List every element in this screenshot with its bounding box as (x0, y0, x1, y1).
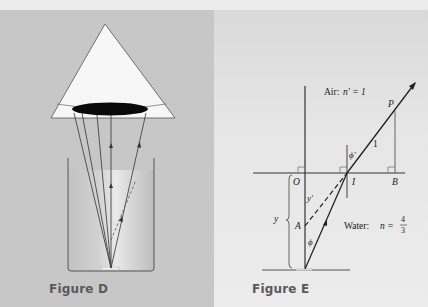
depth-brace (286, 175, 292, 268)
object-base (296, 268, 312, 271)
label-I: I (351, 177, 356, 187)
right-angle-mark (340, 167, 347, 173)
right-angle-mark (388, 167, 395, 173)
label-A: A (294, 221, 301, 231)
arrow-icon (109, 143, 113, 148)
label-B: B (392, 177, 398, 187)
label-P: P (387, 99, 394, 109)
label-phi: ϕ (308, 237, 313, 247)
object-base (101, 267, 119, 270)
figure-d-caption: Figure D (49, 282, 108, 296)
right-angle-mark (298, 167, 305, 173)
label-y: y (273, 214, 279, 224)
black-disk (72, 103, 148, 116)
arrow-icon (323, 219, 327, 226)
label-phi-prime: ϕ′ (349, 150, 357, 160)
figure-e-caption: Figure E (252, 282, 309, 296)
water-index-prefix: n = (380, 221, 394, 231)
air-index: n′ = 1 (343, 87, 366, 97)
label-segment-1: 1 (373, 139, 378, 149)
diagram-canvas: Air: n′ = 1 P 1 ϕ′ O I B y′ y A ϕ Water:… (0, 0, 428, 307)
figure-e: Air: n′ = 1 P 1 ϕ′ O I B y′ y A ϕ Water:… (253, 82, 416, 271)
water-index-numerator: 4 (401, 215, 405, 224)
air-label: Air: (324, 87, 339, 97)
label-y-prime: y′ (306, 193, 314, 203)
water-label: Water: (344, 221, 369, 231)
label-O: O (293, 177, 300, 187)
figure-d (51, 24, 175, 271)
water-index-denominator: 3 (401, 226, 405, 235)
